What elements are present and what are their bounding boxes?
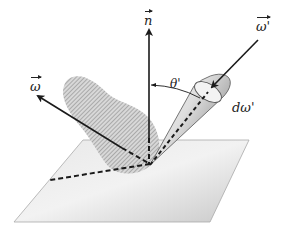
solid-angle-label: dω' bbox=[232, 101, 255, 114]
theta-label: θ' bbox=[170, 78, 181, 90]
outgoing-direction-label: ω bbox=[30, 80, 41, 93]
incident-direction-arrow bbox=[212, 40, 258, 87]
normal-label: n bbox=[144, 14, 152, 27]
incident-direction-label: ω' bbox=[256, 20, 270, 33]
theta-arc-arrowhead bbox=[151, 83, 156, 87]
diagram-canvas bbox=[0, 0, 284, 230]
